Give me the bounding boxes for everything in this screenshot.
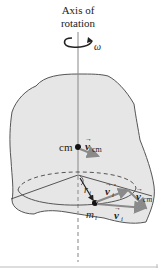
m-i-subscript: i (95, 214, 97, 222)
rigid-body-shape (10, 74, 154, 223)
axis-label-line2: rotation (61, 17, 96, 29)
v-i-label: v (114, 209, 119, 221)
m-i-label: m (86, 208, 94, 220)
axis-label-line1: Axis of (62, 4, 95, 16)
r-i-label: r (84, 184, 88, 195)
v-cm2-subscript: cm (143, 195, 153, 204)
omega-label: ω (94, 41, 101, 52)
v-i-prime-label: v (105, 185, 110, 197)
v-i-prime-prime-mark: ′ (114, 182, 116, 192)
v-cm-subscript: cm (92, 145, 103, 154)
cm-label: cm (59, 141, 73, 153)
v-i-subscript: i (121, 215, 123, 223)
v-cm2-label: v (136, 190, 141, 202)
v-i-prime-subscript: i (112, 191, 114, 199)
rigid-body-rotation-diagram: Axis of rotation ω cm → v cm r i → v i ′… (0, 0, 162, 270)
r-i-subscript: i (89, 189, 91, 197)
v-cm-label: v (85, 140, 90, 152)
